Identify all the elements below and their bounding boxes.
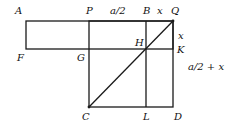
point-label-P: P [86, 6, 93, 16]
point-label-K: K [177, 45, 184, 55]
point-label-C: C [82, 112, 90, 122]
point-label-H: H [135, 38, 144, 48]
point-label-Q: Q [171, 6, 179, 16]
point-label-G: G [77, 53, 85, 63]
rectangle-APQ-FGK [26, 21, 173, 49]
point-label-L: L [143, 112, 150, 122]
measure-BQ: x [157, 6, 163, 16]
measure-PB: a/2 [110, 6, 126, 16]
point-label-A: A [15, 6, 22, 16]
point-label-B: B [143, 6, 150, 16]
diagonal-CQ [89, 21, 173, 107]
point-label-D: D [174, 112, 182, 122]
measure-KD: a/2 + x [188, 62, 224, 72]
point-label-F: F [17, 53, 24, 63]
measure-QK: x [178, 31, 184, 41]
